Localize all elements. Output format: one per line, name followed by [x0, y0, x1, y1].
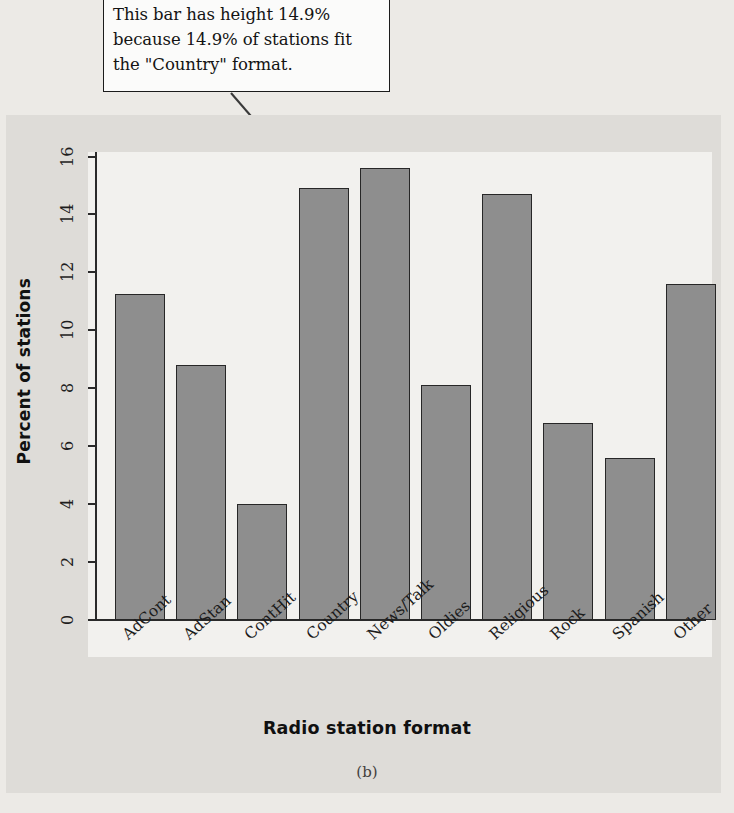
callout-line-2: because 14.9% of stations fit: [113, 27, 381, 52]
y-axis-tick: [88, 329, 96, 331]
y-axis-tick-label: 8: [58, 374, 84, 402]
panel-caption: (b): [0, 763, 734, 781]
figure-root: This bar has height 14.9% because 14.9% …: [0, 0, 734, 813]
y-axis-tick: [88, 387, 96, 389]
y-axis-tick-label: 4: [58, 490, 84, 518]
bar-news-talk: [360, 168, 410, 620]
y-axis-title: Percent of stations: [14, 278, 34, 465]
x-axis-title: Radio station format: [0, 718, 734, 738]
y-axis-tick-label: 0: [58, 606, 84, 634]
y-axis-tick-label: 2: [58, 548, 84, 576]
y-axis-tick: [88, 271, 96, 273]
y-axis-tick: [88, 156, 96, 158]
y-axis-tick-label: 10: [58, 316, 84, 344]
y-axis-tick: [88, 213, 96, 215]
callout-line-1: This bar has height 14.9%: [113, 2, 381, 27]
bar-adstan: [176, 365, 226, 620]
y-axis-tick: [88, 445, 96, 447]
bar-country: [299, 188, 349, 620]
bar-religious: [482, 194, 532, 620]
bar-adcont: [115, 294, 165, 620]
y-axis-tick: [88, 503, 96, 505]
annotation-callout: This bar has height 14.9% because 14.9% …: [103, 0, 390, 92]
callout-line-3: the "Country" format.: [113, 52, 381, 77]
y-axis-tick: [88, 561, 96, 563]
bar-other: [666, 284, 716, 620]
bar-rock: [543, 423, 593, 620]
y-axis-tick: [88, 619, 96, 621]
y-axis-tick-label: 6: [58, 432, 84, 460]
y-axis-tick-label: 16: [58, 143, 84, 171]
y-axis-tick-label: 14: [58, 200, 84, 228]
y-axis-tick-label: 12: [58, 258, 84, 286]
